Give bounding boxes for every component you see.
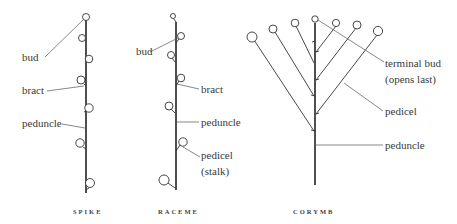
corymb-pedicel-leader — [344, 83, 383, 111]
raceme-flowers — [159, 33, 187, 189]
spike-peduncle-label: peduncle — [22, 117, 62, 129]
corymb-terminal-bud-icon — [312, 16, 318, 22]
spike-bract-leader — [47, 86, 84, 91]
raceme-peduncle-label: peduncle — [201, 116, 241, 128]
corymb-terminal-bud-leader — [318, 20, 384, 62]
raceme-stalk-label: (stalk) — [201, 165, 229, 178]
spike-bud-label: bud — [22, 51, 39, 63]
corymb-opens-last-label: (opens last) — [385, 73, 436, 86]
raceme-bud-leader — [150, 38, 178, 52]
inflorescence-diagram: bud bract peduncle SPIKE bud bract pedun… — [0, 0, 457, 224]
corymb-terminal-bud-label: terminal bud — [385, 57, 441, 69]
raceme-bract-label: bract — [201, 83, 223, 95]
corymb-peduncle-label: peduncle — [385, 139, 425, 151]
raceme-pedicel-leader — [183, 147, 200, 157]
raceme-caption: RACEME — [158, 208, 199, 215]
spike-diagram: bud bract peduncle SPIKE — [22, 14, 103, 216]
corymb-diagram: terminal bud (opens last) pedicel pedunc… — [247, 16, 441, 215]
spike-caption: SPIKE — [73, 208, 103, 215]
spike-bract-label: bract — [22, 84, 44, 96]
raceme-bract-leader — [177, 84, 199, 89]
spike-flowers — [76, 35, 95, 191]
corymb-pedicel-label: pedicel — [385, 105, 417, 117]
raceme-pedicel-label: pedicel — [201, 149, 233, 161]
raceme-bud-icon — [171, 14, 176, 19]
raceme-bud-label: bud — [136, 45, 153, 57]
raceme-diagram: bud bract peduncle pedicel (stalk) RACEM… — [136, 14, 241, 216]
spike-peduncle-leader — [62, 124, 85, 128]
corymb-caption: CORYMB — [293, 208, 334, 215]
